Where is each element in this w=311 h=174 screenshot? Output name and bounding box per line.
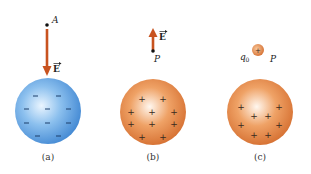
caption-c: (c): [254, 152, 266, 162]
svg-text:+: +: [159, 132, 167, 142]
svg-text:E: E: [53, 64, 60, 74]
field-vector-label-b: E: [159, 30, 168, 42]
point-p-dot: [151, 49, 155, 53]
svg-text:0: 0: [246, 56, 250, 63]
svg-text:+: +: [138, 94, 146, 104]
negative-sphere: [15, 78, 81, 144]
test-charge-sign: +: [255, 47, 261, 55]
test-charge-label: q 0: [240, 52, 250, 63]
diagram-canvas: A E (a): [0, 0, 311, 174]
point-p-label-c: P: [269, 54, 277, 64]
positive-sphere-c: [227, 79, 293, 145]
svg-text:E: E: [159, 32, 166, 42]
svg-text:+: +: [250, 111, 258, 121]
svg-text:+: +: [138, 132, 146, 142]
svg-text:+: +: [170, 119, 178, 129]
svg-text:+: +: [264, 111, 272, 121]
svg-text:+: +: [275, 120, 283, 130]
svg-text:+: +: [127, 107, 135, 117]
svg-text:+: +: [127, 119, 135, 129]
svg-text:+: +: [275, 102, 283, 112]
svg-text:+: +: [148, 107, 156, 117]
svg-text:+: +: [264, 130, 272, 140]
svg-text:+: +: [250, 130, 258, 140]
svg-text:+: +: [237, 120, 245, 130]
point-a-label: A: [51, 15, 59, 25]
field-vector-label-a: E: [53, 62, 62, 74]
field-arrow-up-icon: [149, 28, 158, 50]
field-arrow-down-icon: [43, 29, 52, 76]
panel-a: A E (a): [15, 15, 81, 162]
svg-text:+: +: [159, 94, 167, 104]
panel-c: + q 0 P + + + + + + + + (c): [227, 44, 293, 162]
caption-a: (a): [42, 152, 54, 162]
point-a-dot: [45, 23, 49, 27]
caption-b: (b): [147, 152, 160, 162]
svg-text:+: +: [148, 119, 156, 129]
point-p-label: P: [153, 54, 161, 64]
panel-b: E P + + + + + + + + + + (b): [120, 28, 186, 162]
svg-text:+: +: [170, 107, 178, 117]
svg-text:+: +: [237, 102, 245, 112]
